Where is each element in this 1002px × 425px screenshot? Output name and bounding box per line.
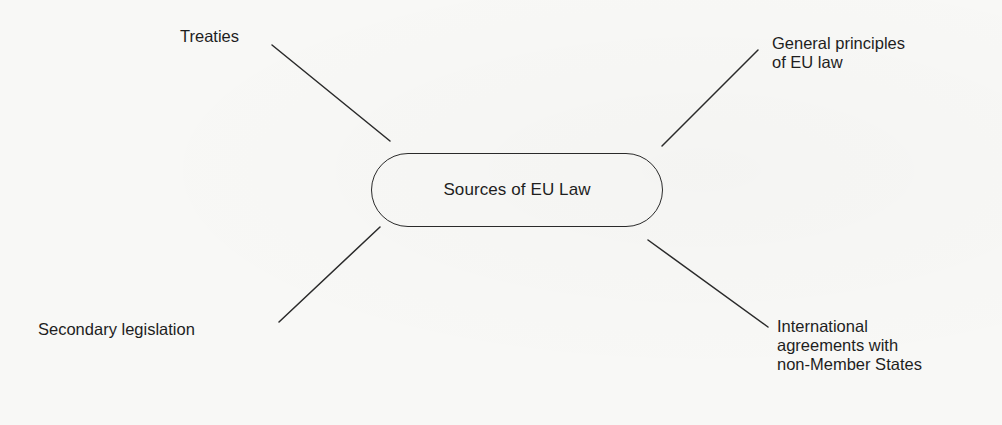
central-node-label: Sources of EU Law: [443, 180, 590, 200]
node-general-principles-line-1: General principles: [772, 34, 905, 53]
edge-international-agreements: [648, 240, 768, 327]
node-treaties: Treaties: [180, 27, 239, 46]
central-node-sources-of-eu-law: Sources of EU Law: [371, 153, 663, 227]
node-secondary-legislation: Secondary legislation: [38, 320, 195, 339]
edge-secondary-legislation: [279, 227, 380, 322]
node-international-agreements-line-2: agreements with: [777, 336, 922, 355]
node-treaties-line-1: Treaties: [180, 27, 239, 46]
node-secondary-legislation-line-1: Secondary legislation: [38, 320, 195, 339]
edge-treaties: [272, 45, 390, 141]
node-general-principles-line-2: of EU law: [772, 53, 905, 72]
node-international-agreements-line-1: International: [777, 317, 922, 336]
diagram-canvas: Sources of EU Law Treaties General princ…: [0, 0, 1002, 425]
node-international-agreements-line-3: non-Member States: [777, 355, 922, 374]
edge-general-principles: [662, 50, 758, 146]
node-general-principles: General principles of EU law: [772, 34, 905, 72]
node-international-agreements: International agreements with non-Member…: [777, 317, 922, 374]
